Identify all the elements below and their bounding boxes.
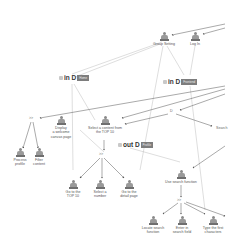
task-label: Locate search function	[142, 226, 165, 235]
system-task-icon	[57, 116, 66, 125]
task-label: Go to the TOP 10	[66, 190, 81, 199]
task-group-setting[interactable]: Group Setting	[151, 32, 177, 46]
task-label: Go to the detail page	[120, 190, 138, 199]
task-enter-search[interactable]: Enter in search field	[169, 216, 195, 235]
task-display-welcome[interactable]: Display a welcome canvas page	[47, 116, 75, 139]
operator-choice: D	[170, 109, 173, 113]
state-in-d-home[interactable]: in D Home	[59, 74, 89, 81]
task-log-in[interactable]: Log In	[185, 32, 205, 46]
task-locate-search[interactable]: Locate search function	[139, 216, 167, 235]
task-go-top10[interactable]: Go to the TOP 10	[62, 180, 84, 199]
state-tag: Profile	[141, 142, 154, 148]
abstract-task-icon	[177, 170, 186, 179]
operator-enabling: >>	[99, 152, 103, 156]
state-title: in D	[168, 78, 180, 85]
user-task-icon	[96, 180, 105, 189]
user-task-icon	[191, 32, 200, 41]
task-label: Select a number	[94, 190, 107, 199]
user-task-icon	[69, 180, 78, 189]
task-label: Process profile	[14, 158, 27, 167]
state-title: out D	[123, 141, 140, 148]
user-task-icon	[160, 32, 169, 41]
state-icon	[118, 143, 122, 147]
task-label: Select a content from the TOP 10	[88, 126, 122, 135]
state-out-d-profile[interactable]: out D Profile	[118, 141, 153, 148]
state-icon	[163, 80, 167, 84]
task-label: Log In	[190, 42, 200, 46]
user-task-icon	[101, 116, 110, 125]
task-select-number[interactable]: Select a number	[89, 180, 111, 199]
task-label: Filter content	[33, 158, 45, 167]
task-icon	[16, 148, 25, 157]
state-tag: Home	[77, 75, 89, 81]
task-select-content[interactable]: Select a content from the TOP 10	[84, 116, 126, 135]
task-type-chars[interactable]: Type the first characters	[198, 216, 228, 235]
operator-enabling: >>	[29, 116, 33, 120]
task-label: Use search function	[165, 180, 197, 184]
task-use-search[interactable]: Use search function	[163, 170, 199, 184]
operator-enabling: >>	[177, 198, 181, 202]
state-in-d-frontend[interactable]: in D Frontend	[163, 78, 197, 85]
task-label: Display a welcome canvas page	[51, 126, 71, 139]
edge-label-search: Search	[216, 126, 227, 130]
user-task-icon	[209, 216, 218, 225]
task-label: Group Setting	[153, 42, 175, 46]
task-icon	[35, 148, 44, 157]
user-task-icon	[125, 180, 134, 189]
user-task-icon	[149, 216, 158, 225]
task-go-detail[interactable]: Go to the detail page	[116, 180, 142, 199]
task-process-profile[interactable]: Process profile	[10, 148, 30, 167]
task-label: Enter in search field	[173, 226, 191, 235]
state-icon	[59, 76, 63, 80]
task-label: Type the first characters	[203, 226, 224, 235]
task-filter-content[interactable]: Filter content	[29, 148, 49, 167]
state-tag: Frontend	[181, 79, 197, 85]
state-title: in D	[64, 74, 76, 81]
user-task-icon	[178, 216, 187, 225]
